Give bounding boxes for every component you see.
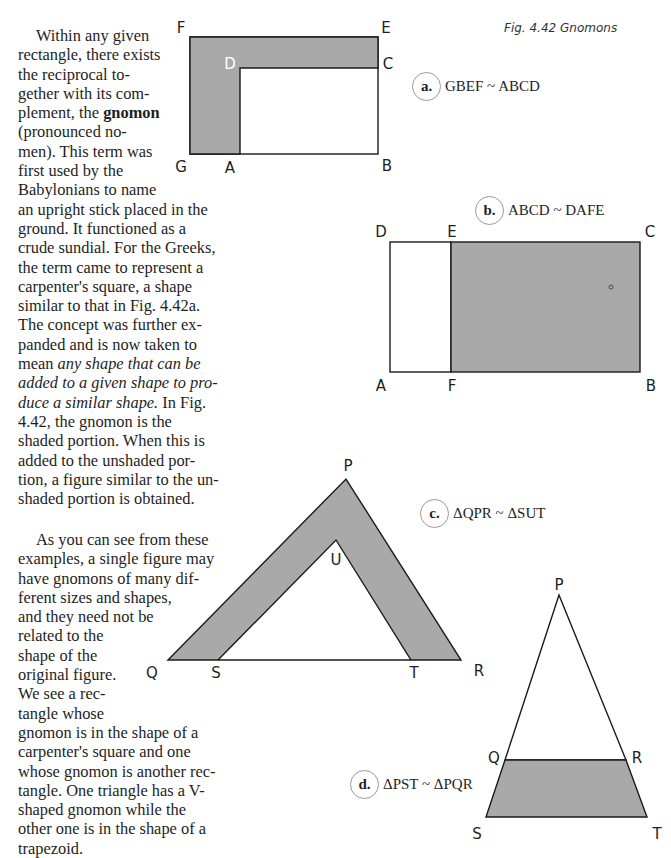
vertex-label-D: D <box>375 225 387 240</box>
vertex-label-E: E <box>381 21 390 36</box>
figure-b-relation: b. ABCD ~ DAFE <box>475 196 604 225</box>
figure-d-tag: d. <box>350 770 379 799</box>
vertex-label-U: U <box>331 553 342 568</box>
figure-caption: Fig. 4.42 Gnomons <box>504 21 617 35</box>
vertex-label-P: P <box>343 459 352 474</box>
vertex-label-F: F <box>177 21 186 36</box>
figure-c-tag: c. <box>420 499 449 528</box>
vertex-label-S: S <box>211 666 221 681</box>
vertex-label-B: B <box>646 379 656 394</box>
vertex-label-C: C <box>383 57 393 72</box>
figure-b <box>390 242 640 372</box>
vertex-label-P: P <box>554 578 563 593</box>
vertex-label-E: E <box>447 225 456 240</box>
vertex-label-T: T <box>652 827 661 842</box>
gnomon-shaded-d <box>486 760 647 817</box>
figure-a <box>190 37 378 154</box>
vertex-label-A: A <box>376 379 386 394</box>
figure-c <box>168 479 461 660</box>
figure-c-relation-text: ΔQPR ~ ΔSUT <box>453 505 545 522</box>
vertex-label-R: R <box>632 751 642 766</box>
figure-a-tag: a. <box>412 72 441 101</box>
figure-b-tag: b. <box>475 196 504 225</box>
gnomon-shaded-c <box>168 479 461 660</box>
vertex-label-G: G <box>175 160 187 175</box>
vertex-label-C: C <box>645 225 655 240</box>
figure-d-relation-text: ΔPST ~ ΔPQR <box>383 776 473 793</box>
vertex-label-R: R <box>474 664 484 679</box>
vertex-label-Q: Q <box>146 666 158 681</box>
vertex-label-F: F <box>448 379 457 394</box>
vertex-label-B: B <box>382 159 392 174</box>
vertex-label-D: D <box>224 57 236 72</box>
vertex-label-T: T <box>409 666 418 681</box>
figure-a-relation-text: GBEF ~ ABCD <box>445 78 540 95</box>
figure-c-relation: c. ΔQPR ~ ΔSUT <box>420 499 545 528</box>
figure-d-relation: d. ΔPST ~ ΔPQR <box>350 770 473 799</box>
gnomon-shaded-b <box>451 242 640 372</box>
figure-d <box>486 595 647 817</box>
vertex-label-S: S <box>472 827 482 842</box>
vertex-label-A: A <box>225 161 235 176</box>
figure-a-relation: a. GBEF ~ ABCD <box>412 72 540 101</box>
vertex-label-Q: Q <box>488 751 500 766</box>
figure-b-relation-text: ABCD ~ DAFE <box>508 202 604 219</box>
